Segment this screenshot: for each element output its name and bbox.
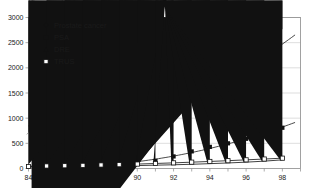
legend-label: TRUS [54,57,74,66]
y-axis-tick-label: 2000 [8,64,24,71]
legend-label: Prostate cancer [54,21,107,30]
legend-marker-open-square [44,60,48,64]
data-point-trus [153,161,157,165]
data-point-trus [171,161,175,165]
data-point-trus [81,163,85,167]
data-point-trus [244,158,248,162]
y-axis-tick-label: 500 [12,140,24,147]
data-point-trus [135,162,139,166]
x-axis-tick-label: 90 [133,174,141,181]
legend-label: PSA [54,33,69,42]
x-axis-tick-label: 96 [242,174,250,181]
y-axis-tick-label: 3000 [8,14,24,21]
x-axis-tick-label: 84 [25,174,33,181]
chart-container: 050010001500200025003000 848688909294969… [0,0,309,188]
data-point-trus [208,159,212,163]
data-point-trus [190,160,194,164]
legend-item-prostate-cancer: Prostate cancer [44,21,108,30]
y-axis-tick-label: 1500 [8,90,24,97]
y-axis-tick-label: 2500 [8,39,24,46]
y-axis-tick-label: 0 [20,165,24,172]
y-axis-tick-labels: 050010001500200025003000 [8,14,24,172]
data-point-trus [63,164,67,168]
x-axis-tick-label: 98 [278,174,286,181]
data-point-trus [226,159,230,163]
data-point-trus [280,156,284,160]
data-point-trus [262,157,266,161]
data-point-trus [117,163,121,167]
data-point-trus [99,163,103,167]
x-axis-tick-label: 92 [170,174,178,181]
legend-marker-filled-square [44,35,48,39]
y-axis-tick-label: 1000 [8,115,24,122]
x-axis-tick-label: 94 [206,174,214,181]
data-point-trus [26,164,30,168]
prostate-cancer-detection-scatter-chart: 050010001500200025003000 848688909294969… [0,0,309,188]
legend-label: DRE [54,45,70,54]
data-point-trus [45,164,49,168]
